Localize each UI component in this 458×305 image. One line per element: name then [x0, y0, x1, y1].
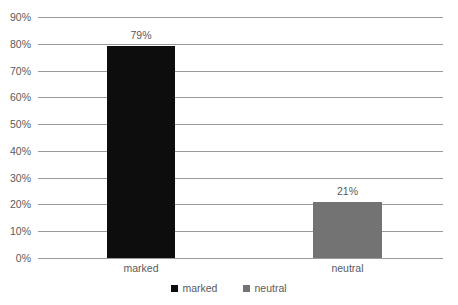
- gridline: [38, 124, 443, 125]
- legend: marked neutral: [0, 283, 458, 294]
- category-label-marked: marked: [107, 263, 175, 274]
- y-axis-tick-label: 50%: [0, 119, 31, 130]
- gridline: [38, 258, 443, 259]
- gridline: [38, 204, 443, 205]
- y-axis-tick-label: 80%: [0, 39, 31, 50]
- legend-item-marked[interactable]: marked: [171, 283, 217, 294]
- bar-value-neutral: 21%: [337, 186, 358, 197]
- gridline: [38, 44, 443, 45]
- legend-swatch-neutral-icon: [243, 285, 250, 292]
- legend-item-neutral[interactable]: neutral: [243, 283, 286, 294]
- bar-marked[interactable]: 79%: [107, 46, 175, 258]
- legend-label-marked: marked: [182, 283, 217, 294]
- y-axis-tick-label: 30%: [0, 172, 31, 183]
- gridline: [38, 151, 443, 152]
- bar-chart: 79% 21% 0%10%20%30%40%50%60%70%80%90% ma…: [0, 0, 458, 305]
- bar-value-marked: 79%: [130, 30, 151, 41]
- y-axis-tick-label: 10%: [0, 226, 31, 237]
- gridline: [38, 178, 443, 179]
- y-axis-tick-label: 70%: [0, 65, 31, 76]
- gridline: [38, 231, 443, 232]
- y-axis-tick-label: 0%: [0, 253, 31, 264]
- gridline: [38, 17, 443, 18]
- legend-swatch-marked-icon: [171, 285, 178, 292]
- bar-neutral[interactable]: 21%: [313, 202, 382, 258]
- y-axis-tick-label: 90%: [0, 12, 31, 23]
- y-axis-tick-label: 60%: [0, 92, 31, 103]
- category-label-neutral: neutral: [313, 263, 382, 274]
- gridline: [38, 97, 443, 98]
- legend-label-neutral: neutral: [254, 283, 286, 294]
- y-axis-tick-label: 20%: [0, 199, 31, 210]
- gridline: [38, 71, 443, 72]
- plot-area: 79% 21%: [38, 17, 443, 258]
- y-axis-tick-label: 40%: [0, 146, 31, 157]
